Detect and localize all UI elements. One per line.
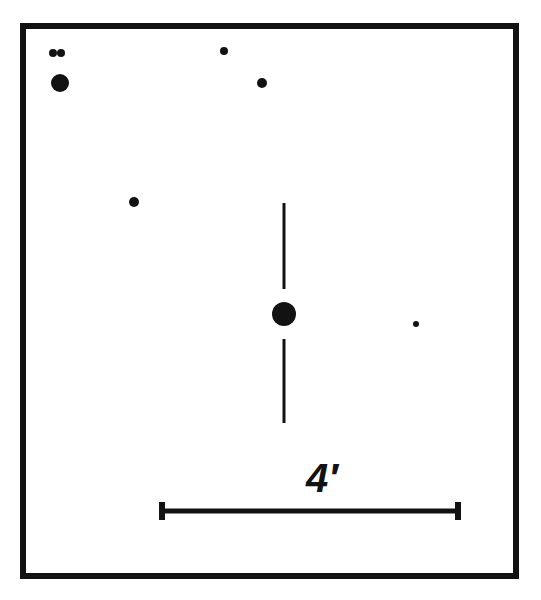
star-marker <box>49 49 57 57</box>
star-marker <box>272 302 296 326</box>
scale-bar-label: 4′ <box>305 456 340 500</box>
star-marker <box>51 74 69 92</box>
star-marker <box>413 321 419 327</box>
star-marker <box>129 197 139 207</box>
finder-chart-figure: 4′ <box>0 0 541 600</box>
chart-canvas: 4′ <box>0 0 541 600</box>
star-marker <box>220 47 228 55</box>
star-marker <box>257 78 267 88</box>
star-marker <box>57 49 65 57</box>
